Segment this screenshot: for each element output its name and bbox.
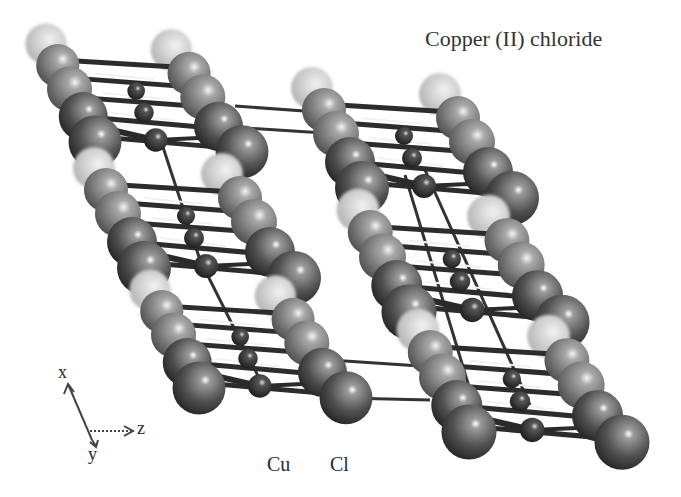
y-axis-label: y (88, 444, 97, 465)
layer-right-bottom (397, 309, 650, 470)
axis-triad (64, 384, 133, 447)
cl-atom-label: Cl (330, 453, 349, 476)
z-axis-label: z (137, 418, 145, 439)
x-axis-label: x (58, 362, 67, 383)
layer-left-top (25, 23, 268, 178)
layer-left-bottom (129, 269, 372, 424)
cu-atom-label: Cu (267, 453, 290, 476)
crystal-structure-diagram (0, 0, 681, 497)
figure-title: Copper (II) chloride (425, 26, 602, 52)
